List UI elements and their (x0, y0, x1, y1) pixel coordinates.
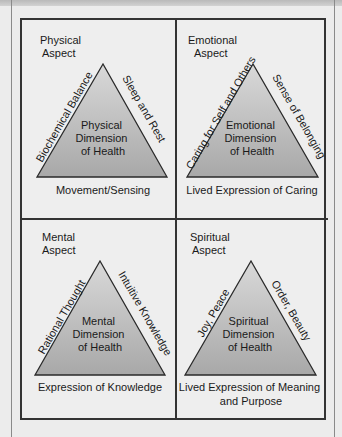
panel-mental: Mental Aspect Rational Thought Intuitive… (35, 231, 174, 393)
aspect-label: Physical Aspect (40, 34, 84, 59)
aspect-label: Spiritual Aspect (190, 231, 233, 256)
base-label: Expression of Knowledge (38, 381, 162, 393)
aspect-label: Emotional Aspect (188, 34, 240, 59)
base-label: Movement/Sensing (56, 184, 150, 196)
aspect-label: Mental Aspect (42, 231, 78, 256)
panel-spiritual: Spiritual Aspect Joy, Peace Order, Beaut… (179, 231, 323, 407)
center-label: Emotional Dimension of Health (224, 119, 279, 157)
center-label: Physical Dimension of Health (75, 119, 130, 157)
panel-emotional: Emotional Aspect Caring for Self and Oth… (183, 34, 328, 196)
center-label: Spiritual Dimension of Health (222, 315, 277, 353)
health-dimensions-diagram: Physical Aspect Biochemical Balance Slee… (0, 0, 342, 437)
base-label: Lived Expression of Meaning and Purpose (179, 381, 323, 407)
base-label: Lived Expression of Caring (186, 184, 317, 196)
panel-physical: Physical Aspect Biochemical Balance Slee… (33, 34, 168, 196)
